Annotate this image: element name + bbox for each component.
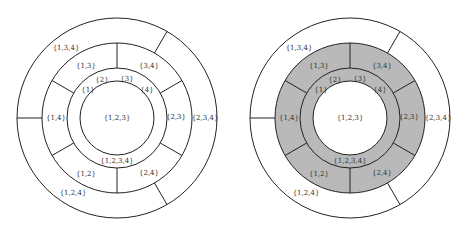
outer-divider-60 [155,31,168,53]
singleton-label: {4} [373,86,386,94]
core-label: {1,2,3} [104,114,131,122]
triple-label: {1,3,4} [53,44,80,52]
core-label: {1,2,3} [337,114,364,122]
pair-label: {2,3} [166,113,186,121]
singleton-label: {1} [314,86,327,94]
divider-30 [160,81,182,94]
divider-210 [52,143,74,156]
pair-label: {2,4} [372,169,392,177]
pair-label: {1,4} [279,114,299,122]
pair-label: {1,4} [46,114,66,122]
left-diagram: {1,2,3} {1,2,3,4} {1} {2} {3} {4} {1,3} … [17,18,218,218]
right-diagram: {1,2,3} {1,2,3,4} {1} {2} {3} {4} {1,3} … [250,18,451,218]
singleton-label: {3} [353,75,366,83]
triple-label: {1,2,4} [293,189,320,197]
full-set-label: {1,2,3,4} [100,157,133,165]
full-set-label: {1,2,3,4} [333,157,366,165]
outer-divider-60 [388,31,401,53]
outer-divider-300 [155,183,168,205]
pair-label: {3,4} [372,62,392,70]
outer-divider-300 [388,183,401,205]
triple-label: {2,3,4} [425,114,452,122]
singleton-label: {2} [328,76,341,84]
singleton-label: {1} [81,86,94,94]
pair-label: {1,2} [309,170,329,178]
pair-label: {3,4} [139,62,159,70]
triple-label: {1,3,4} [286,44,313,52]
triple-label: {1,2,4} [60,189,87,197]
divider-330 [160,143,182,156]
triple-label: {2,3,4} [192,114,219,122]
pair-label: {2,3} [399,113,419,121]
singleton-label: {3} [120,75,133,83]
pair-label: {1,3} [76,62,96,70]
singleton-label: {4} [140,86,153,94]
pair-label: {1,2} [76,170,96,178]
pair-label: {1,3} [309,62,329,70]
singleton-label: {2} [95,76,108,84]
pair-label: {2,4} [139,169,159,177]
divider-150 [52,81,74,94]
diagram-canvas: {1,2,3} {1,2,3,4} {1} {2} {3} {4} {1,3} … [0,0,464,232]
